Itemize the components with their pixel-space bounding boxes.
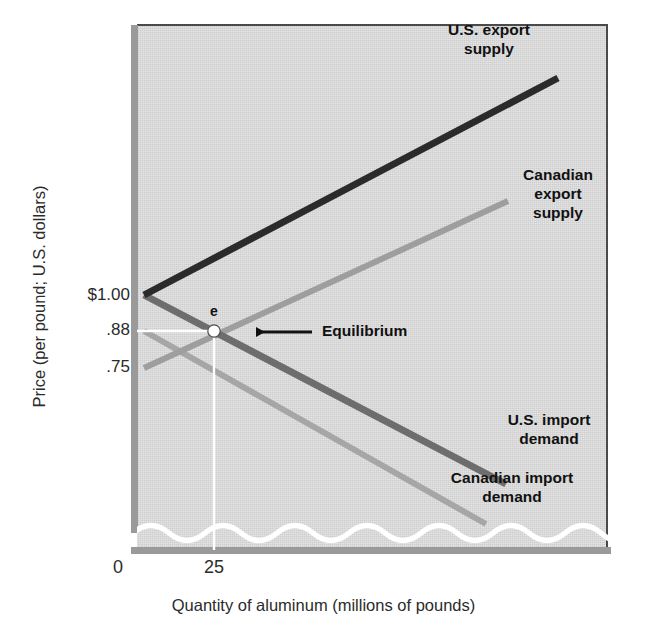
x-axis-title: Quantity of aluminum (millions of pounds… [0, 596, 647, 615]
equilibrium-point-letter: e [210, 303, 218, 319]
y-axis-title: Price (per pound; U.S. dollars) [30, 142, 49, 452]
x-tick-label-0: 0 [98, 557, 138, 578]
axis-break-wave [133, 526, 613, 541]
curve-label-canadian-import-demand: Canadian import demand [418, 468, 606, 506]
y-tick-label-88: .88 [40, 320, 130, 340]
curve-label-us-export-supply: U.S. export supply [398, 20, 580, 58]
x-tick-label-25: 25 [191, 557, 237, 578]
curve-label-canadian-export-supply: Canadian export supply [488, 165, 628, 222]
equilibrium-point-marker [208, 325, 220, 337]
figure-aluminum-trade-equilibrium: $1.00 .88 .75 0 25 U.S. export supply Ca… [0, 0, 647, 631]
curve-label-us-import-demand: U.S. import demand [478, 410, 620, 448]
equilibrium-annotation-label: Equilibrium [322, 322, 407, 340]
curves-overlay [0, 0, 647, 631]
y-tick-label-100: $1.00 [40, 285, 130, 305]
series-line-canadian-export-supply [144, 201, 508, 368]
y-tick-label-75: .75 [40, 357, 130, 377]
